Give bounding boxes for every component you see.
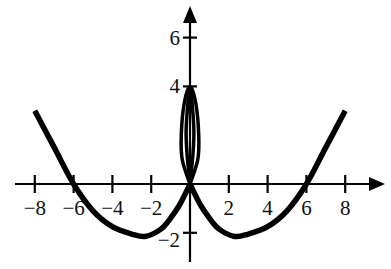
y-axis-arrow-icon xyxy=(183,6,197,23)
x-axis-arrow-icon xyxy=(369,177,385,191)
x-tick-label: −2 xyxy=(140,196,162,220)
x-tick-label: −8 xyxy=(24,196,46,220)
polar-curve-plot: −8−6−4−2246864−2 xyxy=(0,0,391,269)
x-tick-label: 6 xyxy=(301,196,312,220)
y-tick-label: 4 xyxy=(170,74,181,98)
y-tick-label: 6 xyxy=(170,26,181,50)
x-tick-label: 2 xyxy=(224,196,235,220)
x-tick-label: 8 xyxy=(340,196,351,220)
x-tick-label: −4 xyxy=(101,196,124,220)
x-tick-label: 4 xyxy=(262,196,273,220)
